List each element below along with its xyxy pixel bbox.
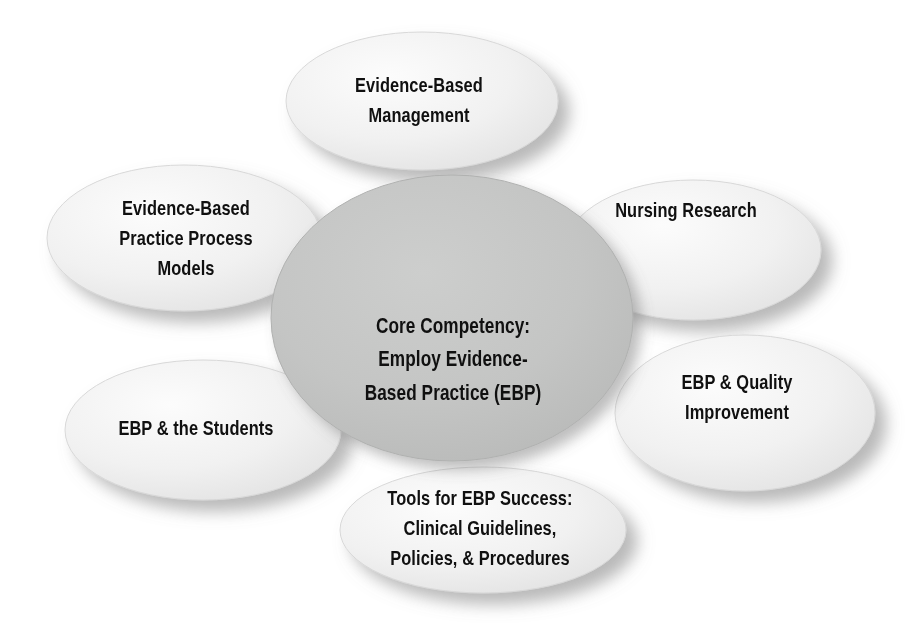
diagram-shapes [0,0,909,623]
node-shape-core-competency[interactable] [271,175,633,461]
center-shape-group [271,175,633,461]
node-shape-evidence-based-management[interactable] [286,32,558,170]
diagram-canvas: Evidence-Based Management Evidence-Based… [0,0,909,623]
node-shape-tools-for-ebp-success[interactable] [340,467,626,593]
node-shape-ebp-and-quality-improvement[interactable] [615,335,875,491]
